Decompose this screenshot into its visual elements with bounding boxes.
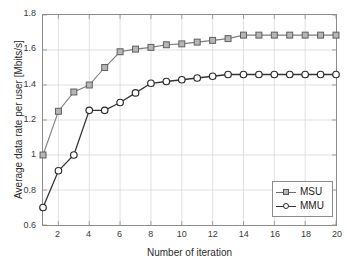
data-point-mmu — [209, 73, 216, 80]
data-point-msu — [179, 41, 185, 47]
x-axis-tick-label: 8 — [139, 229, 163, 239]
x-axis-tick-label: 20 — [325, 229, 347, 239]
data-point-msu — [318, 32, 324, 38]
data-point-mmu — [179, 76, 186, 83]
data-point-mmu — [163, 78, 170, 85]
legend-label-msu: MSU — [300, 186, 322, 198]
data-point-mmu — [101, 107, 108, 114]
data-point-msu — [117, 49, 123, 55]
x-axis-tick-label: 10 — [170, 229, 194, 239]
data-point-mmu — [240, 71, 247, 78]
data-point-msu — [163, 42, 169, 48]
data-point-msu — [256, 32, 262, 38]
data-point-mmu — [302, 71, 309, 78]
data-point-msu — [333, 32, 339, 38]
series-line-msu — [43, 35, 336, 155]
data-point-mmu — [225, 71, 232, 78]
legend-label-mmu: MMU — [300, 200, 324, 212]
data-point-msu — [133, 46, 139, 52]
x-axis-title: Number of iteration — [42, 247, 337, 258]
x-axis-tick-label: 4 — [77, 229, 101, 239]
x-axis-tick-label: 2 — [46, 229, 70, 239]
data-point-msu — [271, 32, 277, 38]
legend-item-mmu: MMU — [276, 199, 328, 213]
data-point-msu — [210, 37, 216, 43]
data-point-mmu — [55, 167, 62, 174]
x-axis-tick-label: 14 — [232, 229, 256, 239]
data-point-mmu — [317, 71, 324, 78]
data-point-mmu — [117, 99, 124, 106]
x-axis-tick-label: 18 — [294, 229, 318, 239]
data-point-mmu — [71, 152, 78, 159]
data-point-msu — [102, 65, 108, 71]
data-point-mmu — [194, 75, 201, 82]
data-point-msu — [71, 89, 77, 95]
data-point-msu — [302, 32, 308, 38]
data-point-msu — [194, 39, 200, 45]
x-axis-tick-label: 12 — [201, 229, 225, 239]
legend-item-msu: MSU — [276, 185, 328, 199]
legend-marker-circle-icon — [276, 200, 296, 212]
data-point-msu — [148, 44, 154, 50]
y-axis-title: Average data rate per user [Mbits/s] — [13, 10, 24, 230]
data-point-msu — [40, 152, 46, 158]
data-point-mmu — [132, 90, 139, 97]
data-point-msu — [86, 82, 92, 88]
chart-figure: 0.60.811.21.41.61.8 2468101214161820 Num… — [0, 0, 347, 268]
x-axis-tick-label: 16 — [263, 229, 287, 239]
data-point-msu — [225, 36, 231, 42]
data-point-msu — [55, 108, 61, 114]
data-point-mmu — [333, 71, 340, 78]
data-point-mmu — [40, 204, 47, 211]
data-point-mmu — [148, 80, 155, 87]
legend: MSU MMU — [272, 181, 333, 217]
data-point-mmu — [286, 71, 293, 78]
legend-marker-square-icon — [276, 186, 296, 198]
data-point-mmu — [256, 71, 263, 78]
data-point-mmu — [271, 71, 278, 78]
data-point-msu — [240, 32, 246, 38]
data-point-msu — [287, 32, 293, 38]
data-point-mmu — [86, 107, 93, 114]
x-axis-tick-label: 6 — [108, 229, 132, 239]
